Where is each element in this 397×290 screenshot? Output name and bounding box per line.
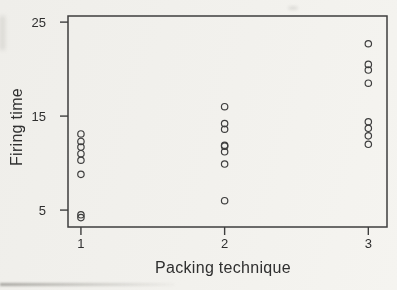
scan-artifact-left-smudge: [0, 16, 5, 50]
data-point: [78, 157, 84, 163]
x-tick-label: 3: [365, 236, 372, 251]
y-tick-label: 25: [32, 15, 46, 30]
y-tick-label: 5: [39, 203, 46, 218]
data-point: [221, 161, 227, 167]
scan-artifact-top-speck: [288, 6, 298, 10]
data-point: [365, 125, 371, 131]
data-point: [365, 80, 371, 86]
scatter-plot-canvas: 51525123: [0, 0, 397, 290]
y-tick-label: 15: [32, 109, 46, 124]
x-tick-label: 1: [77, 236, 84, 251]
data-point: [78, 171, 84, 177]
scanned-scatterplot-figure: 51525123 Firing time Packing technique: [0, 0, 397, 290]
data-point: [365, 133, 371, 139]
x-axis-title: Packing technique: [155, 259, 291, 277]
data-point: [221, 197, 227, 203]
data-point: [365, 141, 371, 147]
scan-artifact-bottom-streak: [0, 283, 175, 286]
data-point: [78, 150, 84, 156]
data-point: [365, 119, 371, 125]
x-tick-label: 2: [221, 236, 228, 251]
data-point: [365, 41, 371, 47]
data-point: [221, 103, 227, 109]
data-point: [78, 131, 84, 137]
y-axis-title: Firing time: [8, 88, 26, 166]
